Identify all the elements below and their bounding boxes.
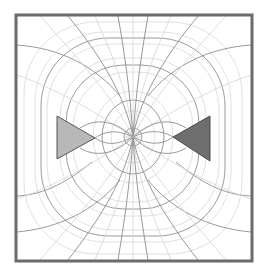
right-triangle [173,116,210,161]
field-lines [17,16,251,260]
field-diagram [0,0,266,274]
diagram-canvas [0,0,266,274]
